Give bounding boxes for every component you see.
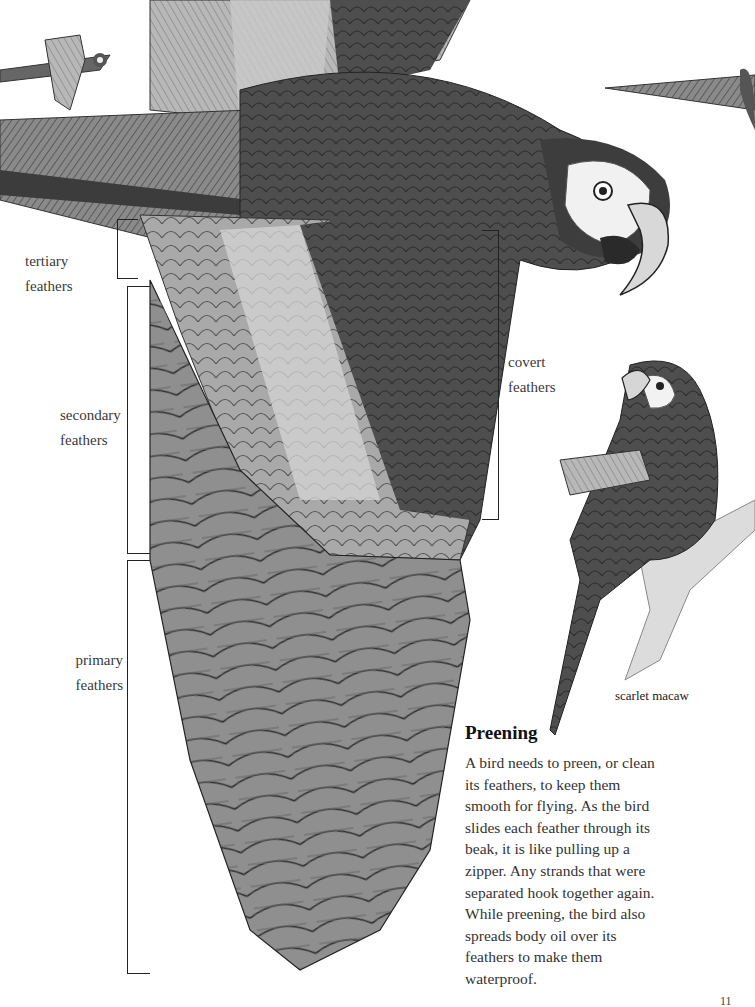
primary-bracket [127,560,150,974]
preening-body: A bird needs to preen, or clean its feat… [465,752,695,990]
small-macaw-icon [0,35,110,110]
secondary-feathers-label: secondary feathers [60,403,121,453]
scarlet-macaw-illustration [550,361,755,735]
preening-heading: Preening [465,722,537,744]
covert-bracket [482,230,499,520]
scarlet-macaw-caption: scarlet macaw [615,688,689,704]
page-number: 11 [720,994,732,1007]
covert-feathers-label: covert feathers [508,350,555,400]
tertiary-bracket [117,219,138,279]
secondary-bracket [127,286,150,554]
tertiary-feathers-label: tertiary feathers [25,249,72,299]
primary-feathers-label: primary feathers [60,648,123,698]
